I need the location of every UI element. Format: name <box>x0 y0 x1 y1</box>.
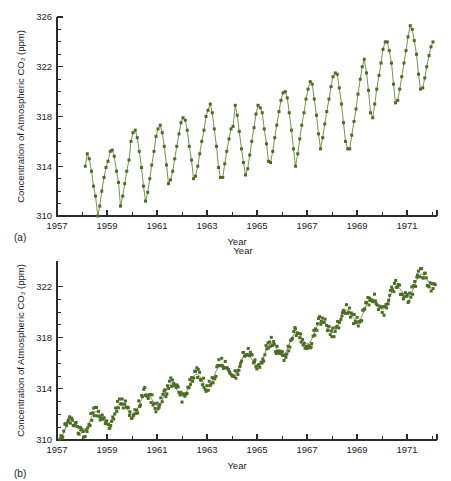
data-point <box>327 329 330 332</box>
data-point <box>188 145 191 148</box>
panel-a: 3103143183223261957195919611963196519671… <box>0 0 451 245</box>
data-point <box>144 200 147 203</box>
data-point <box>181 401 184 404</box>
x-tick-label: 1957 <box>46 444 67 455</box>
data-point <box>165 392 168 395</box>
data-point <box>408 292 411 295</box>
data-point <box>428 54 431 57</box>
panel-b: 3103143183221957195919611963196519671969… <box>0 245 451 481</box>
data-point <box>369 111 372 114</box>
data-point <box>263 127 266 130</box>
data-point <box>136 136 139 139</box>
data-point <box>232 125 235 128</box>
data-point <box>67 418 70 421</box>
y-axis-title: Concentration of Atmospheric CO₂ (ppm) <box>15 30 26 203</box>
x-tick-label: 1971 <box>396 220 417 231</box>
data-point <box>105 419 108 422</box>
data-point <box>84 435 87 438</box>
data-point <box>164 395 167 398</box>
data-point <box>94 195 97 198</box>
data-point <box>357 324 360 327</box>
data-point <box>244 173 247 176</box>
data-point <box>383 314 386 317</box>
data-point <box>313 334 316 337</box>
x-tick-label: 1963 <box>196 220 217 231</box>
data-point <box>131 417 134 420</box>
data-point <box>242 351 245 354</box>
data-point <box>86 430 89 433</box>
data-point <box>62 430 65 433</box>
data-point <box>215 145 218 148</box>
data-point <box>223 162 226 165</box>
data-point <box>117 406 120 409</box>
data-point <box>418 275 421 278</box>
data-point <box>138 150 141 153</box>
data-point <box>221 176 224 179</box>
data-point <box>273 343 276 346</box>
data-point <box>155 402 158 405</box>
data-point <box>258 366 261 369</box>
x-tick-label: 1969 <box>346 220 367 231</box>
data-point <box>158 406 161 409</box>
data-point <box>403 62 406 65</box>
data-point <box>424 272 427 275</box>
data-point <box>121 398 124 401</box>
data-point <box>311 83 314 86</box>
data-point <box>123 403 126 406</box>
data-point <box>328 98 331 101</box>
y-axis-title: Concentration of Atmospheric CO₂ (ppm) <box>15 264 26 437</box>
data-point <box>125 170 128 173</box>
data-point <box>390 286 393 289</box>
data-point <box>338 86 341 89</box>
y-tick-label: 314 <box>36 161 52 172</box>
data-point <box>387 299 390 302</box>
data-point <box>141 395 144 398</box>
data-point <box>253 126 256 129</box>
data-point <box>340 103 343 106</box>
data-point <box>208 380 211 383</box>
data-point <box>188 386 191 389</box>
data-point <box>283 359 286 362</box>
data-point <box>407 35 410 38</box>
data-point <box>169 178 172 181</box>
data-point <box>363 58 366 61</box>
data-point <box>400 75 403 78</box>
data-point <box>207 389 210 392</box>
data-point <box>298 336 301 339</box>
data-point <box>319 147 322 150</box>
x-tick-label: 1963 <box>196 444 217 455</box>
data-point <box>202 377 205 380</box>
data-point <box>237 369 240 372</box>
data-point <box>192 377 195 380</box>
data-point <box>263 353 266 356</box>
data-point <box>409 296 412 299</box>
data-point <box>288 111 291 114</box>
data-point <box>268 340 271 343</box>
data-point <box>355 321 358 324</box>
data-point <box>190 159 193 162</box>
data-point <box>162 393 165 396</box>
data-point <box>186 129 189 132</box>
data-point <box>159 396 162 399</box>
data-point <box>248 154 251 157</box>
data-point <box>91 411 94 414</box>
data-point <box>148 177 151 180</box>
y-tick-label: 318 <box>36 332 52 343</box>
data-point <box>323 321 326 324</box>
data-point <box>367 303 370 306</box>
data-point <box>330 85 333 88</box>
y-tick-label: 322 <box>36 61 52 72</box>
data-point <box>170 385 173 388</box>
data-point <box>201 383 204 386</box>
data-point <box>205 115 208 118</box>
data-point <box>305 98 308 101</box>
data-point <box>281 350 284 353</box>
data-point <box>401 293 404 296</box>
data-point <box>394 279 397 282</box>
data-point <box>287 349 290 352</box>
data-point <box>294 165 297 168</box>
data-point <box>296 152 299 155</box>
data-point <box>154 407 157 410</box>
data-point <box>365 71 368 74</box>
data-point <box>392 83 395 86</box>
